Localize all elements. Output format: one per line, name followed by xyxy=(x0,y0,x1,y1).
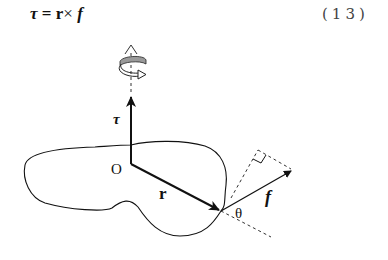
axis-arrowhead-icon xyxy=(125,45,137,54)
torque-label: τ xyxy=(113,111,121,127)
position-vector xyxy=(131,164,219,210)
origin-label: O xyxy=(111,161,122,177)
r-extension-dashed xyxy=(221,211,271,237)
torque-diagram: τ O r f θ xyxy=(0,0,388,260)
position-label: r xyxy=(159,184,167,203)
perpendicular-dashed xyxy=(231,150,258,198)
rigid-body-outline xyxy=(24,141,226,236)
rotation-arrow-icon xyxy=(119,56,146,79)
force-label: f xyxy=(265,187,273,207)
force-vector xyxy=(221,171,291,211)
angle-label: θ xyxy=(235,205,242,221)
